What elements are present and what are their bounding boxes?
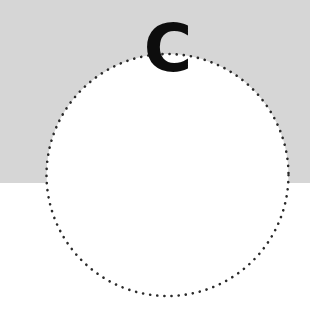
letter-label: C [138,14,198,84]
